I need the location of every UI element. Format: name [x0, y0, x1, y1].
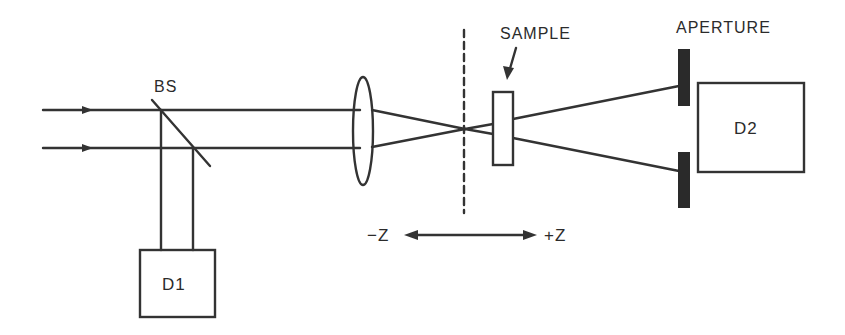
sample-label: SAMPLE	[500, 26, 571, 42]
arrowhead-icon	[503, 66, 514, 80]
reference-beams	[161, 110, 193, 250]
beam-arrow-icon	[82, 106, 93, 152]
aperture-top-bar	[678, 49, 690, 106]
diagram-canvas	[0, 0, 845, 335]
z-scan-diagram: BS SAMPLE APERTURE D1 D2 −Z +Z	[0, 0, 845, 335]
detector-d1-label: D1	[162, 276, 186, 293]
aperture-label: APERTURE	[676, 20, 771, 36]
focused-beam	[372, 86, 679, 171]
plus-z-label: +Z	[544, 227, 566, 244]
detector-d2-label: D2	[734, 120, 758, 137]
beam-splitter-label: BS	[154, 79, 177, 95]
arrowhead-right-icon	[523, 230, 537, 240]
minus-z-label: −Z	[367, 227, 389, 244]
aperture-bottom-bar	[678, 152, 690, 208]
sample-box	[493, 92, 513, 165]
input-beams	[43, 110, 360, 148]
lens	[353, 77, 373, 185]
arrowhead-left-icon	[404, 230, 418, 240]
aperture	[678, 49, 690, 208]
